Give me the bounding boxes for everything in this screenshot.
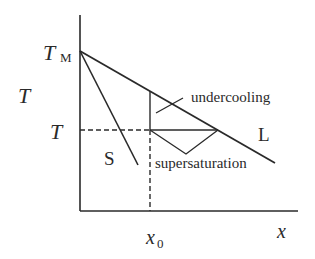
x0-subscript: 0 [157, 236, 164, 251]
tm-subscript: M [60, 50, 72, 65]
undercooling-pointer [156, 98, 183, 113]
x0-label: x [145, 226, 155, 248]
tm-label: T [43, 40, 57, 65]
solidus-label: S [104, 148, 115, 169]
liquidus-label: L [258, 124, 270, 145]
undercooling-label: undercooling [191, 89, 271, 105]
supersaturation-bracket [150, 130, 218, 154]
x-axis-label: x [276, 220, 286, 242]
phase-diagram: T M T T S L undercooling supersaturation… [0, 0, 315, 259]
diagram-svg: T M T T S L undercooling supersaturation… [0, 0, 315, 259]
y-axis-label: T [18, 83, 32, 108]
supersaturation-label: supersaturation [155, 155, 247, 171]
temp-level-label: T [50, 119, 64, 144]
